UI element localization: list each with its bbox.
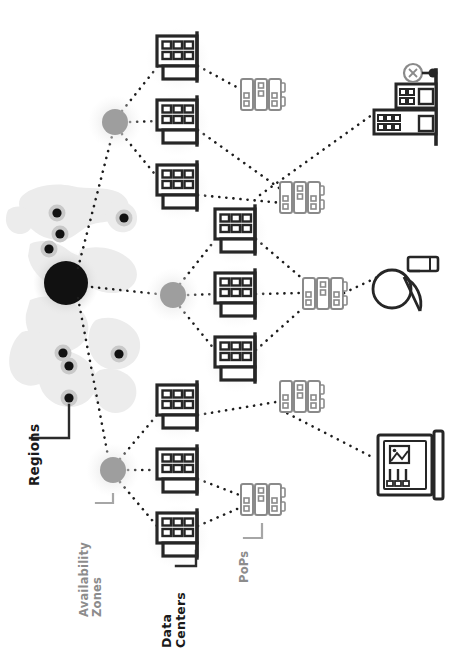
- datacenter-building-icon[interactable]: [157, 33, 197, 81]
- primary-region-dot[interactable]: [44, 261, 88, 305]
- datacenter-building-icon[interactable]: [157, 97, 197, 145]
- infrastructure-hierarchy-svg: [0, 0, 453, 664]
- pop-server-rack-icon[interactable]: [241, 79, 285, 110]
- datacenter-building-icon[interactable]: [157, 382, 197, 430]
- label-availability-zones-line1: Availability: [78, 542, 91, 617]
- region-dot[interactable]: [111, 346, 128, 363]
- az-dot[interactable]: [102, 109, 128, 135]
- label-data-centers-line1: Data: [160, 592, 174, 648]
- satellite-dish-icon[interactable]: [373, 257, 438, 311]
- endpoint-nodes: [373, 64, 443, 499]
- leader-pops: [244, 524, 262, 538]
- data-center-node[interactable]: [146, 28, 210, 92]
- data-center-node[interactable]: [204, 329, 268, 393]
- link-dc7-pop4: [198, 401, 282, 415]
- datacenter-building-icon[interactable]: [157, 162, 197, 210]
- data-center-node[interactable]: [146, 157, 210, 221]
- office-building-icon[interactable]: [374, 64, 438, 144]
- leader-lines: [30, 405, 262, 566]
- data-center-node[interactable]: [204, 265, 268, 329]
- link-pop4-endpoint-billboard: [281, 410, 374, 458]
- datacenter-building-icon[interactable]: [215, 206, 255, 254]
- region-dot[interactable]: [49, 205, 66, 222]
- az-dot[interactable]: [100, 457, 126, 483]
- region-dot[interactable]: [52, 226, 69, 243]
- label-regions: Regions: [26, 424, 42, 486]
- az-dot[interactable]: [160, 282, 186, 308]
- link-dc2-pop2: [198, 130, 282, 190]
- availability-zone-node[interactable]: [146, 268, 200, 322]
- diagram-canvas: Regions Availability Zones Data Centers …: [0, 0, 453, 664]
- region-dot[interactable]: [61, 358, 78, 375]
- label-availability-zones-line2: Zones: [91, 542, 104, 617]
- region-dot[interactable]: [41, 241, 58, 258]
- pop-server-rack-icon[interactable]: [280, 381, 324, 412]
- availability-zone-node[interactable]: [88, 95, 142, 149]
- label-pops: PoPs: [237, 551, 251, 583]
- region-dot[interactable]: [116, 210, 133, 227]
- pop-server-rack-icon[interactable]: [303, 278, 347, 309]
- label-data-centers-line2: Centers: [174, 592, 188, 648]
- data-center-node[interactable]: [146, 505, 210, 569]
- label-availability-zones: Availability Zones: [78, 542, 104, 617]
- label-data-centers: Data Centers: [160, 592, 188, 648]
- billboard-icon[interactable]: [378, 431, 443, 499]
- pop-server-rack-icon[interactable]: [280, 182, 324, 213]
- datacenter-building-icon[interactable]: [157, 446, 197, 494]
- data-center-node[interactable]: [146, 441, 210, 505]
- datacenter-building-icon[interactable]: [157, 510, 197, 558]
- availability-zone-node[interactable]: [86, 443, 140, 497]
- pop-server-rack-icon[interactable]: [241, 484, 285, 515]
- data-center-node[interactable]: [204, 201, 268, 265]
- data-center-node[interactable]: [146, 92, 210, 156]
- datacenter-building-icon[interactable]: [215, 270, 255, 318]
- datacenter-building-icon[interactable]: [215, 334, 255, 382]
- data-center-node[interactable]: [146, 377, 210, 441]
